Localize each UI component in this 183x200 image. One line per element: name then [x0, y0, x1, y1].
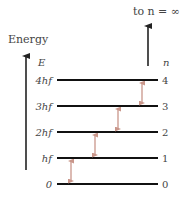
n-label-3: 3	[162, 101, 168, 112]
energy-label-0: 0	[46, 179, 53, 190]
energy-level-diagram: to n = ∞ Energy E n 00hf12hf23hf34hf4	[0, 0, 183, 200]
n-label-4: 4	[162, 75, 168, 86]
energy-axis-label: Energy	[8, 33, 49, 46]
n-label-0: 0	[162, 179, 168, 190]
energy-label-4: 4hf	[34, 75, 54, 86]
energy-symbol: E	[37, 57, 46, 68]
energy-label-2: 2hf	[34, 127, 54, 138]
n-symbol: n	[163, 57, 169, 68]
infinity-label: to n = ∞	[133, 5, 180, 18]
n-label-2: 2	[162, 127, 168, 138]
energy-label-3: 3hf	[35, 101, 54, 112]
energy-label-1: hf	[42, 153, 54, 164]
diagram-canvas: to n = ∞ Energy E n 00hf12hf23hf34hf4	[0, 0, 183, 200]
n-label-1: 1	[162, 153, 168, 164]
